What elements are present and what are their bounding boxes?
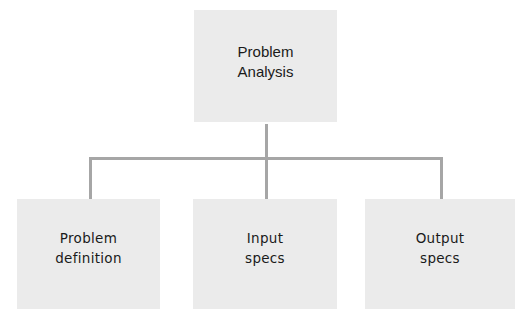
connector-to-input-specs [265,157,268,199]
connector-to-output-specs [440,157,443,199]
node-problem-analysis: Problem Analysis [194,10,337,122]
node-label: Input specs [245,228,285,268]
node-output-specs: Output specs [365,199,515,309]
node-problem-definition: Problem definition [17,199,160,309]
connector-to-problem-definition [89,157,92,199]
node-label: Problem definition [55,228,122,268]
node-label: Output specs [416,228,465,268]
connector-root-trunk [265,124,268,159]
node-label: Problem Analysis [238,42,294,82]
node-input-specs: Input specs [193,199,337,309]
